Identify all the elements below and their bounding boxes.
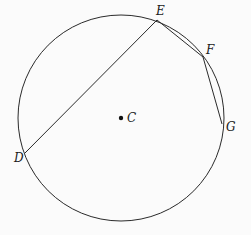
- label-g: G: [226, 120, 236, 134]
- label-f: F: [205, 43, 215, 57]
- label-d: D: [13, 151, 24, 165]
- center-point: [119, 116, 123, 120]
- background: [0, 0, 251, 235]
- label-c: C: [127, 111, 136, 125]
- circle-diagram: E F G D C: [0, 0, 251, 235]
- label-e: E: [155, 4, 165, 18]
